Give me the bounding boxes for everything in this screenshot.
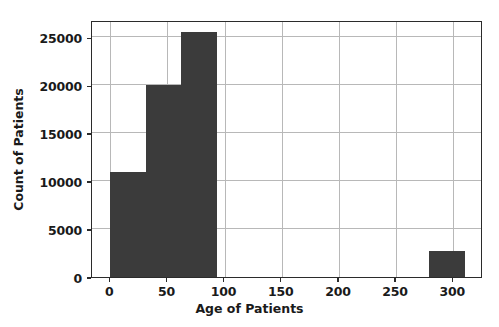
- x-axis-label: Age of Patients: [0, 301, 499, 316]
- y-tick-mark: [87, 86, 91, 87]
- x-tick-mark: [280, 278, 281, 282]
- y-tick-label: 25000: [40, 31, 83, 46]
- y-tick-mark: [87, 133, 91, 134]
- x-tick-mark: [109, 278, 110, 282]
- x-tick-label: 200: [325, 284, 351, 299]
- x-tick-label: 0: [105, 284, 114, 299]
- gridline-vertical: [225, 22, 226, 277]
- gridline-vertical: [453, 22, 454, 277]
- x-tick-mark: [394, 278, 395, 282]
- y-tick-label: 15000: [40, 127, 83, 142]
- y-tick-label: 5000: [48, 223, 82, 238]
- x-tick-label: 100: [211, 284, 237, 299]
- y-tick-mark: [87, 181, 91, 182]
- x-tick-mark: [166, 278, 167, 282]
- x-tick-label: 250: [382, 284, 408, 299]
- x-tick-mark: [223, 278, 224, 282]
- y-tick-label: 0: [74, 271, 83, 286]
- x-tick-label: 300: [440, 284, 466, 299]
- histogram-bar: [181, 32, 216, 277]
- gridline-vertical: [282, 22, 283, 277]
- gridline-horizontal: [92, 36, 481, 37]
- y-axis-label: Count of Patients: [8, 21, 30, 278]
- x-tick-label: 50: [158, 284, 175, 299]
- y-tick-mark: [87, 229, 91, 230]
- histogram-bar: [429, 251, 464, 277]
- y-tick-label: 10000: [40, 175, 83, 190]
- y-tick-label: 20000: [40, 79, 83, 94]
- gridline-vertical: [339, 22, 340, 277]
- x-tick-label: 150: [268, 284, 294, 299]
- y-tick-mark: [87, 277, 91, 278]
- gridline-vertical: [396, 22, 397, 277]
- x-tick-mark: [337, 278, 338, 282]
- histogram-bar: [110, 172, 145, 277]
- x-tick-mark: [452, 278, 453, 282]
- plot-area: [91, 21, 482, 278]
- histogram-figure: 0500010000150002000025000050100150200250…: [0, 0, 499, 327]
- histogram-bar: [146, 85, 181, 277]
- y-tick-mark: [87, 38, 91, 39]
